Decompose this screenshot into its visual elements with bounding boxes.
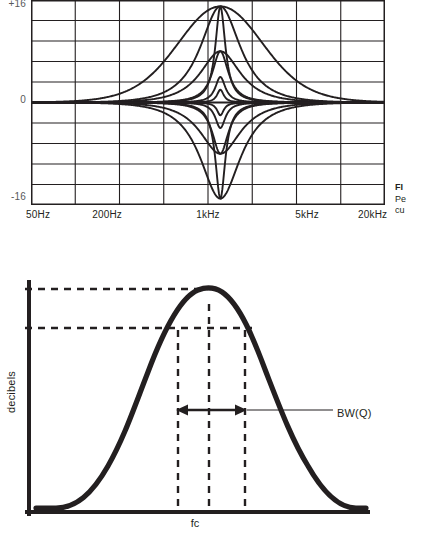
eq-response-curve [31,103,385,154]
figure-one-caption-line-1: Pe [395,194,421,206]
bell-response-curve [36,288,366,508]
eq-response-curve [31,103,385,154]
figure-eq-response: +16 0 -16 50Hz200Hz1kHz5kHz20kHz FI Pe c… [0,0,430,250]
figure-bandwidth-diagram: decibels fc BW(Q) FI Th be po do fre the… [0,268,430,539]
bell-curve-graphic [0,268,380,539]
bell-y-axis-label: decibels [5,357,17,427]
eq-response-curve [31,103,385,129]
eq-response-curves [31,0,385,205]
bell-x-axis-label: fc [175,517,215,529]
eq-x-axis-tick: 20kHz [343,209,403,220]
eq-response-curve [31,103,385,199]
eq-plot-area [31,0,385,205]
bell-marker-lines [178,304,245,511]
eq-response-curve [31,77,385,103]
figure-one-caption: FI Pe cu [395,182,421,217]
bell-plot-area: decibels fc BW(Q) [0,268,380,539]
eq-y-axis-label-min: -16 [0,191,26,202]
figure-one-caption-head: FI [395,182,421,194]
eq-response-curve [31,103,385,199]
eq-x-axis-tick: 200Hz [77,209,137,220]
eq-response-curve [31,6,385,102]
eq-x-axis-tick: 50Hz [8,209,68,220]
eq-response-curve [31,51,385,102]
bell-reference-lines [25,289,252,328]
bandwidth-arrow [176,405,247,416]
eq-y-axis-label-max: +16 [0,0,26,9]
eq-response-curve [31,7,385,103]
eq-response-curve [31,51,385,102]
eq-x-axis-tick: 1kHz [178,209,238,220]
eq-y-axis-label-zero: 0 [0,94,26,105]
eq-x-axis-tick: 5kHz [277,209,337,220]
figure-one-caption-line-2: cu [395,205,421,217]
bandwidth-annotation-label: BW(Q) [337,407,372,419]
eq-response-curve [31,6,385,102]
